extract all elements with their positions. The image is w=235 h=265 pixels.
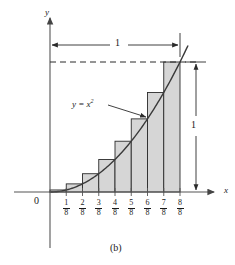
fraction-numerator: 7 bbox=[160, 199, 167, 207]
fraction: 2 8 bbox=[79, 199, 86, 218]
fraction-denominator: 8 bbox=[144, 209, 151, 217]
x-tick-label: 7 8 bbox=[156, 199, 172, 218]
x-tick-label: 4 8 bbox=[107, 199, 123, 218]
fraction-numerator: 3 bbox=[95, 199, 102, 207]
x-tick-label: 8 8 bbox=[172, 199, 188, 218]
fraction: 8 8 bbox=[177, 199, 184, 218]
riemann-rectangles bbox=[50, 62, 180, 192]
x-tick-label: 5 8 bbox=[123, 199, 139, 218]
fraction-numerator: 6 bbox=[144, 199, 151, 207]
fraction-denominator: 8 bbox=[128, 209, 135, 217]
x-axis-label: x bbox=[224, 186, 228, 195]
vertical-dimension-label: 1 bbox=[191, 120, 196, 130]
fraction-numerator: 4 bbox=[112, 199, 119, 207]
fraction-denominator: 8 bbox=[112, 209, 119, 217]
x-tick-label: 6 8 bbox=[140, 199, 156, 218]
fraction-denominator: 8 bbox=[95, 209, 102, 217]
riemann-bar bbox=[115, 141, 131, 192]
fraction-denominator: 8 bbox=[160, 209, 167, 217]
x-tick-label: 3 8 bbox=[91, 199, 107, 218]
fraction-numerator: 8 bbox=[177, 199, 184, 207]
curve-equation-base: y = x bbox=[72, 99, 91, 109]
fraction-numerator: 2 bbox=[79, 199, 86, 207]
curve-equation-exponent: 2 bbox=[91, 98, 94, 104]
curve-label-leader-line bbox=[108, 105, 146, 117]
riemann-bar bbox=[164, 62, 180, 192]
origin-label: 0 bbox=[34, 196, 39, 206]
riemann-bar bbox=[99, 160, 115, 193]
fraction-numerator: 5 bbox=[128, 199, 135, 207]
fraction: 7 8 bbox=[160, 199, 167, 218]
x-tick-label: 2 8 bbox=[75, 199, 91, 218]
fraction: 3 8 bbox=[95, 199, 102, 218]
fraction: 4 8 bbox=[112, 199, 119, 218]
fraction: 6 8 bbox=[144, 199, 151, 218]
x-tick-label: 1 8 bbox=[58, 199, 74, 218]
fraction-denominator: 8 bbox=[177, 209, 184, 217]
y-axis-label: y bbox=[45, 8, 49, 17]
figure-caption: (b) bbox=[110, 243, 122, 253]
figure-container: 0 x y 1 1 (b) y = x2 1 8 2 8 3 8 4 8 bbox=[0, 0, 235, 265]
fraction: 1 8 bbox=[63, 199, 70, 218]
horizontal-dimension-label: 1 bbox=[115, 38, 120, 48]
fraction-denominator: 8 bbox=[63, 209, 70, 217]
fraction-denominator: 8 bbox=[79, 209, 86, 217]
fraction-numerator: 1 bbox=[63, 199, 70, 207]
curve-equation-label: y = x2 bbox=[72, 98, 94, 109]
fraction: 5 8 bbox=[128, 199, 135, 218]
